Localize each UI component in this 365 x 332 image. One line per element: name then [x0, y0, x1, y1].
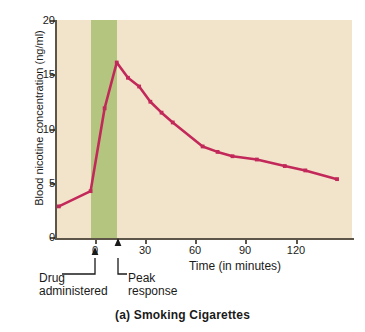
- y-axis-title: Blood nicotine concentration (ng/ml): [33, 18, 45, 218]
- annotation-peak-line2: response: [128, 285, 177, 298]
- y-axis-line: [55, 20, 57, 239]
- nicotine-concentration-line: [57, 20, 352, 238]
- annotation-drug-administered: Drug administered: [39, 272, 108, 298]
- figure-smoking-cigarettes: 20 15 10 5 0 0 30 60 90 120 Blood nicoti…: [0, 0, 365, 332]
- annotation-peak-response: Peak response: [128, 272, 177, 298]
- figure-caption: (a) Smoking Cigarettes: [0, 308, 365, 322]
- plot-area: [57, 20, 352, 238]
- y-axis-ticks: 20 15 10 5 0: [0, 0, 55, 260]
- annotation-drug-line2: administered: [39, 285, 108, 298]
